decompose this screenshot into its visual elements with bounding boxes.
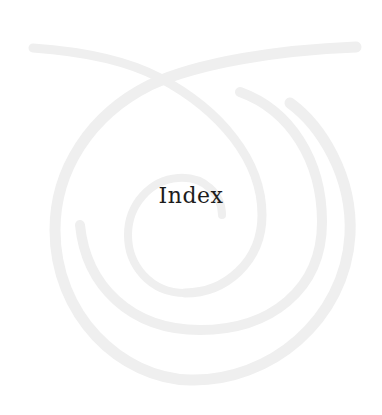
index-title-page: Index — [0, 0, 382, 415]
page-title: Index — [0, 183, 382, 208]
